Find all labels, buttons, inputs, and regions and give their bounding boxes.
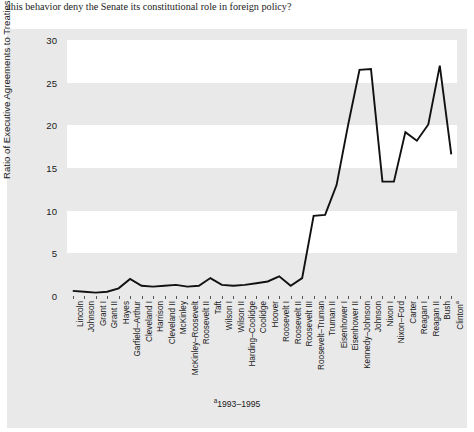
x-axis-tick-label: Roosevelt I <box>282 301 291 342</box>
x-axis-tick-label: Nixon I <box>386 301 395 326</box>
x-axis-tick <box>360 296 361 299</box>
plot-area <box>67 40 457 296</box>
x-axis-tick-label: Lincoln <box>76 301 85 327</box>
x-axis-tick-label: Roosevelt II <box>294 301 303 344</box>
x-axis-tick <box>314 296 315 299</box>
x-axis-tick-label: Johnson <box>374 301 383 332</box>
x-axis-tick <box>176 296 177 299</box>
x-axis-tick <box>245 296 246 299</box>
x-axis-tick-label: Roosevelt II <box>202 301 211 344</box>
figure-container: Ratio of Executive Agreements to Treatie… <box>7 29 467 428</box>
x-axis-tick <box>325 296 326 299</box>
x-axis-tick <box>130 296 131 299</box>
x-axis-tick <box>291 296 292 299</box>
x-axis-tick <box>256 296 257 299</box>
x-axis-tick-label: Nixon–Ford <box>397 301 406 343</box>
x-axis-tick <box>382 296 383 299</box>
x-axis-tick-label: Eisenhower II <box>351 301 360 351</box>
y-axis-ticks: 051015202530 <box>7 40 65 296</box>
x-axis-labels: LincolnJohnsonGrant IGrant IIHayesGarfie… <box>67 301 457 401</box>
x-axis-tick-label: Johnson <box>87 301 96 332</box>
x-axis-tick <box>73 296 74 299</box>
x-axis-tick-label: Grant I <box>99 301 108 326</box>
x-axis-tick-label: McKinley <box>179 301 188 334</box>
x-axis-tick-label: McKinley–Roosevelt <box>191 301 200 375</box>
figure-footnote: a1993–1995 <box>7 397 467 409</box>
x-axis-tick <box>394 296 395 299</box>
x-axis-tick <box>348 296 349 299</box>
x-axis-tick <box>107 296 108 299</box>
x-axis-tick-label: Wilson II <box>237 301 246 332</box>
x-axis-tick-label: Eisenhower I <box>340 301 349 348</box>
x-axis-tick <box>451 296 452 299</box>
x-axis-tick <box>371 296 372 299</box>
x-axis-tick <box>233 296 234 299</box>
x-axis-tick-label: Cleveland II <box>168 301 177 344</box>
y-axis-tick-label: 0 <box>52 291 57 302</box>
x-axis-tick-label: Grant II <box>110 301 119 328</box>
label-superscript: a <box>454 301 460 304</box>
x-axis-tick <box>210 296 211 299</box>
x-axis-tick <box>417 296 418 299</box>
x-axis-tick <box>187 296 188 299</box>
page-caption-text: this behavior deny the Senate its consti… <box>8 0 468 14</box>
x-axis-tick <box>302 296 303 299</box>
x-axis-tick <box>153 296 154 299</box>
x-axis-tick-label: Harrison <box>156 301 165 332</box>
x-axis-tick-label: Wilson I <box>225 301 234 330</box>
x-axis-tick <box>405 296 406 299</box>
x-axis-tick-label: Taft <box>214 301 223 314</box>
x-axis-tick <box>119 296 120 299</box>
x-axis-tick-label: Roosevelt–Truman <box>317 301 326 370</box>
x-axis-tick <box>279 296 280 299</box>
x-axis-tick-label: Hoover <box>271 301 280 327</box>
x-axis-tick <box>440 296 441 299</box>
x-axis-tick-label: Roosevelt III <box>305 301 314 347</box>
x-axis-tick <box>142 296 143 299</box>
x-axis-tick-label: Clintona <box>454 301 465 330</box>
x-axis-tick <box>222 296 223 299</box>
x-axis-tick-label: Reagan II <box>432 301 441 337</box>
x-axis-tick <box>165 296 166 299</box>
x-axis-tick <box>96 296 97 299</box>
x-axis-tick-label: Hayes <box>122 301 131 324</box>
y-axis-tick-label: 10 <box>46 205 57 216</box>
x-axis-tick-label: Coolidge <box>259 301 268 333</box>
x-axis-tick-label: Reagan I <box>420 301 429 334</box>
x-axis-tick-label: Cleveland I <box>145 301 154 342</box>
x-axis-tick-label: Truman II <box>328 301 337 336</box>
x-axis-tick-label: Garfield–Arthur <box>133 301 142 357</box>
x-axis-tick <box>268 296 269 299</box>
y-axis-tick-label: 30 <box>46 35 57 46</box>
y-axis-tick-label: 15 <box>46 163 57 174</box>
y-axis-tick-label: 5 <box>52 248 57 259</box>
footnote-text: 1993–1995 <box>217 399 260 409</box>
x-axis-tick <box>199 296 200 299</box>
x-axis-tick-marks <box>67 296 457 299</box>
x-axis-tick-label: Bush <box>443 301 452 320</box>
x-axis-tick-label: Carter <box>409 301 418 324</box>
y-axis-tick-label: 25 <box>46 77 57 88</box>
x-axis-tick-label: Kennedy–Johnson <box>363 301 372 369</box>
y-axis-tick-label: 20 <box>46 120 57 131</box>
x-axis-tick <box>337 296 338 299</box>
x-axis-tick-label: Harding–Coolidge <box>248 301 257 367</box>
x-axis-tick <box>428 296 429 299</box>
data-line-series <box>67 40 457 296</box>
x-axis-tick <box>84 296 85 299</box>
